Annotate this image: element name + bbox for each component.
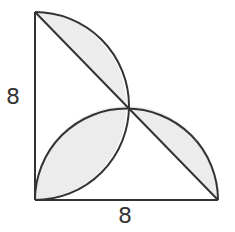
bottom-leg-length-label: 8	[118, 205, 132, 227]
left-leg-length-label: 8	[6, 86, 20, 108]
diagram-canvas	[0, 0, 235, 232]
